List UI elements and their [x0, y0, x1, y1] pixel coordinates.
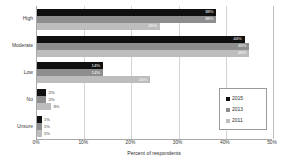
bar-chart: High Moderate Low No Unsure 38%38%26%44%… [0, 0, 285, 168]
bar-low-2011[interactable] [37, 76, 150, 83]
bar-row: 26% [37, 23, 272, 30]
y-axis-category-labels: High Moderate Low No Unsure [0, 6, 33, 140]
bar-row: 44% [37, 36, 272, 43]
bar-row: 45% [37, 50, 272, 57]
legend-swatch-icon-2013 [226, 108, 230, 112]
bar-value-label: 26% [148, 24, 157, 28]
bar-value-label: 38% [205, 10, 214, 14]
bar-value-label: 2% [48, 98, 54, 102]
x-tick-label: 0% [33, 141, 40, 146]
legend-item-2011: 2011 [226, 115, 266, 126]
bar-moderate-2015[interactable] [37, 36, 245, 43]
bar-no-2011[interactable] [37, 103, 51, 110]
bar-value-label: 1% [44, 131, 50, 135]
legend-item-2015: 2015 [226, 93, 266, 104]
x-tick-label: 30% [173, 141, 183, 146]
legend-label-2011: 2011 [232, 118, 243, 123]
bar-value-label: 1% [44, 117, 50, 121]
bar-value-label: 44% [233, 37, 242, 41]
bar-value-label: 14% [92, 64, 101, 68]
x-tick-label: 10% [78, 141, 88, 146]
gridline [273, 6, 274, 139]
legend-swatch-icon-2011 [226, 119, 230, 123]
x-axis-tick-labels: 0%10%20%30%40%50% [36, 141, 272, 150]
chart-legend: 2015 2013 2011 [219, 88, 267, 130]
bar-group: 44%45%45% [37, 33, 272, 60]
category-label-moderate: Moderate [12, 43, 33, 48]
category-label-high: High [23, 16, 33, 21]
bar-unsure-2015[interactable] [37, 116, 42, 123]
bar-row: 45% [37, 43, 272, 50]
bar-high-2013[interactable] [37, 16, 216, 23]
bar-row: 14% [37, 69, 272, 76]
bar-moderate-2013[interactable] [37, 43, 249, 50]
bar-unsure-2011[interactable] [37, 130, 42, 137]
category-label-low: Low [24, 70, 33, 75]
bar-value-label: 1% [44, 124, 50, 128]
bar-moderate-2011[interactable] [37, 50, 249, 57]
bar-value-label: 24% [139, 78, 148, 82]
bar-value-label: 45% [238, 51, 247, 55]
bar-row: 38% [37, 16, 272, 23]
bar-value-label: 2% [48, 91, 54, 95]
x-axis-title: Percent of respondents [36, 151, 272, 156]
x-tick-label: 20% [126, 141, 136, 146]
bar-value-label: 3% [53, 105, 59, 109]
bar-value-label: 38% [205, 17, 214, 21]
category-label-no: No [27, 97, 33, 102]
bar-no-2013[interactable] [37, 96, 46, 103]
bar-value-label: 14% [92, 71, 101, 75]
bar-row: 14% [37, 62, 272, 69]
bar-group: 14%14%24% [37, 60, 272, 87]
bar-high-2015[interactable] [37, 9, 216, 16]
bar-no-2015[interactable] [37, 89, 46, 96]
bar-group: 38%38%26% [37, 6, 272, 33]
bar-unsure-2013[interactable] [37, 123, 42, 130]
bar-high-2011[interactable] [37, 23, 160, 30]
legend-item-2013: 2013 [226, 104, 266, 115]
bar-value-label: 45% [238, 44, 247, 48]
bar-row: 38% [37, 9, 272, 16]
bar-row: 24% [37, 76, 272, 83]
x-tick-label: 40% [220, 141, 230, 146]
category-label-unsure: Unsure [17, 124, 33, 129]
legend-label-2013: 2013 [232, 107, 243, 112]
legend-swatch-icon-2015 [226, 97, 230, 101]
x-tick-label: 50% [267, 141, 277, 146]
legend-label-2015: 2015 [232, 96, 243, 101]
bar-row: 1% [37, 130, 272, 137]
